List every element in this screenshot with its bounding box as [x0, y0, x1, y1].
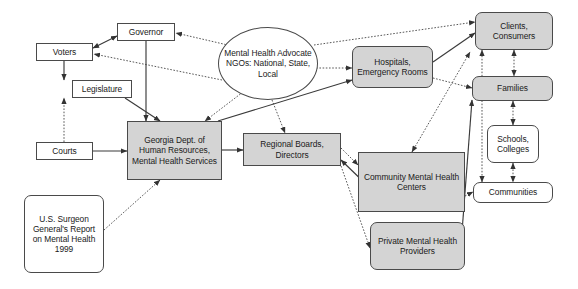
node-families[interactable]: Families	[472, 76, 553, 101]
node-label-cmhc: Community Mental Health Centers	[359, 172, 464, 193]
node-label-voters: Voters	[50, 47, 79, 57]
diagram-canvas: VotersGovernorLegislatureCourtsU.S. Surg…	[0, 0, 578, 289]
node-label-schools: Schools, Colleges	[488, 134, 538, 155]
node-hospitals[interactable]: Hospitals, Emergency Rooms	[352, 46, 433, 88]
node-label-private: Private Mental Health Providers	[371, 236, 464, 257]
node-label-regional: Regional Boards, Directors	[244, 139, 340, 160]
edge-ngo-to-governor	[176, 33, 232, 46]
node-schools[interactable]: Schools, Colleges	[487, 125, 539, 163]
node-communities[interactable]: Communities	[473, 182, 553, 203]
edge-ngo-to-voters	[94, 54, 222, 80]
node-regional[interactable]: Regional Boards, Directors	[243, 133, 341, 166]
node-label-courts: Courts	[49, 146, 79, 156]
node-clients[interactable]: Clients, Consumers	[475, 12, 553, 50]
node-private[interactable]: Private Mental Health Providers	[370, 222, 465, 270]
node-label-ngo: Mental Health Advocate NGOs: National, S…	[219, 48, 317, 79]
node-label-surgeon: U.S. Surgeon General's Report on Mental …	[25, 214, 103, 255]
node-label-legislature: Legislature	[79, 84, 125, 94]
edge-hospitals-to-clients	[433, 33, 475, 62]
node-surgeon[interactable]: U.S. Surgeon General's Report on Mental …	[24, 195, 104, 273]
edge-ngo-to-gadhr	[205, 92, 243, 121]
node-label-communities: Communities	[486, 187, 540, 197]
edge-ngo-to-clients	[314, 22, 475, 45]
node-governor[interactable]: Governor	[117, 23, 175, 41]
edge-ngo-to-regional	[272, 100, 285, 133]
edge-cmhc-to-communities	[465, 192, 473, 196]
node-legislature[interactable]: Legislature	[72, 80, 132, 98]
node-cmhc[interactable]: Community Mental Health Centers	[358, 152, 465, 212]
node-label-gadhr: Georgia Dept. of Human Resources, Mental…	[128, 135, 221, 166]
node-label-clients: Clients, Consumers	[476, 21, 552, 42]
node-label-hospitals: Hospitals, Emergency Rooms	[353, 57, 432, 78]
edge-voters-to-governor	[93, 36, 117, 48]
node-gadhr[interactable]: Georgia Dept. of Human Resources, Mental…	[127, 121, 222, 180]
node-ngo[interactable]: Mental Health Advocate NGOs: National, S…	[218, 27, 318, 100]
node-voters[interactable]: Voters	[36, 43, 93, 61]
edge-surgeon-to-gadhr	[104, 180, 160, 230]
node-label-families: Families	[494, 83, 531, 93]
node-courts[interactable]: Courts	[36, 142, 93, 160]
edge-legislature-to-gadhr	[125, 98, 160, 121]
node-label-governor: Governor	[126, 27, 167, 37]
